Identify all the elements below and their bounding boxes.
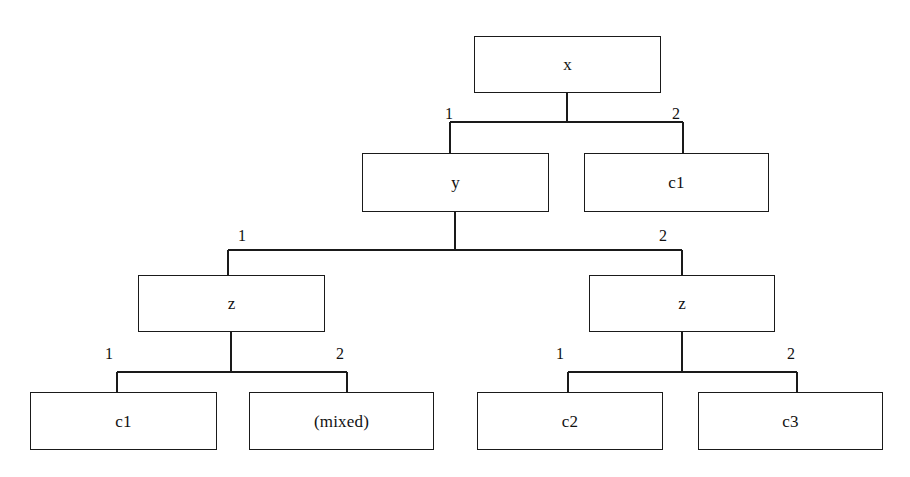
connector-c-y — [228, 212, 682, 275]
edge-label-zleft-child1: 1 — [105, 346, 113, 362]
edge-label-zright-child1: 1 — [556, 346, 564, 362]
edge-label-root-child2: 2 — [672, 106, 680, 122]
tree-diagram: x y c1 z z c1 (mixed) c2 c3 1 2 1 2 1 2 … — [0, 0, 910, 477]
node-z-left: z — [138, 275, 325, 332]
edge-label-zright-child2: 2 — [787, 346, 795, 362]
node-c1-top: c1 — [584, 153, 769, 212]
node-label: c2 — [562, 413, 578, 430]
node-label: y — [451, 174, 460, 191]
edge-label-y-child1: 1 — [238, 228, 246, 244]
edge-label-root-child1: 1 — [445, 106, 453, 122]
node-label: c1 — [668, 174, 684, 191]
node-label: c3 — [782, 413, 798, 430]
node-c2: c2 — [477, 392, 663, 450]
edge-label-zleft-child2: 2 — [336, 346, 344, 362]
connector-c-z-right — [568, 332, 797, 392]
node-z-right: z — [589, 275, 775, 332]
edge-label-y-child2: 2 — [659, 228, 667, 244]
node-label: (mixed) — [314, 413, 369, 430]
node-c3: c3 — [698, 392, 883, 450]
connector-c-z-left — [117, 332, 347, 392]
node-c1: c1 — [30, 392, 217, 450]
node-label: c1 — [115, 413, 131, 430]
node-label: z — [228, 295, 236, 312]
node-label: x — [563, 56, 572, 73]
node-root: x — [474, 36, 661, 93]
node-mixed: (mixed) — [249, 392, 434, 450]
edge-paths — [117, 93, 797, 392]
node-label: z — [678, 295, 686, 312]
node-y: y — [362, 153, 549, 212]
connector-c-root — [450, 93, 683, 153]
